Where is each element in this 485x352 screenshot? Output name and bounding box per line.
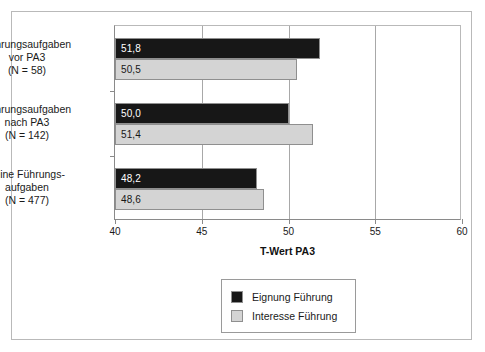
bar-value-label: 51,8 xyxy=(116,43,141,54)
legend-label-eignung-fuehrung: Eignung Führung xyxy=(252,291,333,303)
legend-label-interesse-fuehrung: Interesse Führung xyxy=(252,310,337,322)
x-tick xyxy=(202,219,203,224)
category-label-line: (N = 142) xyxy=(0,129,102,142)
plot-area: 4045505560 51,850,550,051,448,248,6 xyxy=(114,25,461,220)
x-tick-label: 45 xyxy=(196,226,207,237)
category-label: Führungsaufgabenvor PA3(N = 58) xyxy=(0,38,102,77)
bar-value-label: 51,4 xyxy=(116,129,141,140)
bar: 50,0 xyxy=(115,103,289,124)
bar: 51,4 xyxy=(115,124,313,145)
category-label-line: keine Führungs- xyxy=(0,168,102,181)
category-label-line: (N = 477) xyxy=(0,194,102,207)
category-label-line: (N = 58) xyxy=(0,64,102,77)
chart-legend: Eignung Führung Interesse Führung xyxy=(221,279,356,333)
category-label-line: Führungsaufgaben xyxy=(0,103,102,116)
x-tick xyxy=(289,219,290,224)
x-tick-label: 40 xyxy=(109,226,120,237)
x-tick-label: 55 xyxy=(370,226,381,237)
legend-swatch-interesse-fuehrung xyxy=(231,310,243,322)
legend-item[interactable]: Eignung Führung xyxy=(231,287,346,306)
legend-item[interactable]: Interesse Führung xyxy=(231,306,346,325)
gridline xyxy=(375,26,376,219)
bar: 51,8 xyxy=(115,38,320,59)
bar-value-label: 50,5 xyxy=(116,64,141,75)
y-tick xyxy=(110,91,115,92)
bar-value-label: 48,6 xyxy=(116,194,141,205)
category-label-line: vor PA3 xyxy=(0,51,102,64)
category-label-line: nach PA3 xyxy=(0,116,102,129)
chart-figure: 4045505560 51,850,550,051,448,248,6 Führ… xyxy=(11,11,472,340)
category-label-line: aufgaben xyxy=(0,181,102,194)
bar: 48,6 xyxy=(115,189,264,210)
bar: 50,5 xyxy=(115,59,297,80)
y-tick xyxy=(110,156,115,157)
x-tick xyxy=(462,219,463,224)
category-label-line: Führungsaufgaben xyxy=(0,38,102,51)
category-label: keine Führungs-aufgaben(N = 477) xyxy=(0,168,102,207)
legend-swatch-eignung-fuehrung xyxy=(231,291,243,303)
x-tick xyxy=(375,219,376,224)
x-tick-label: 60 xyxy=(456,226,467,237)
bar: 48,2 xyxy=(115,168,257,189)
x-tick xyxy=(115,219,116,224)
x-tick-label: 50 xyxy=(283,226,294,237)
category-label: Führungsaufgabennach PA3(N = 142) xyxy=(0,103,102,142)
x-axis-title: T-Wert PA3 xyxy=(114,245,461,257)
bar-value-label: 48,2 xyxy=(116,173,141,184)
bar-value-label: 50,0 xyxy=(116,108,141,119)
